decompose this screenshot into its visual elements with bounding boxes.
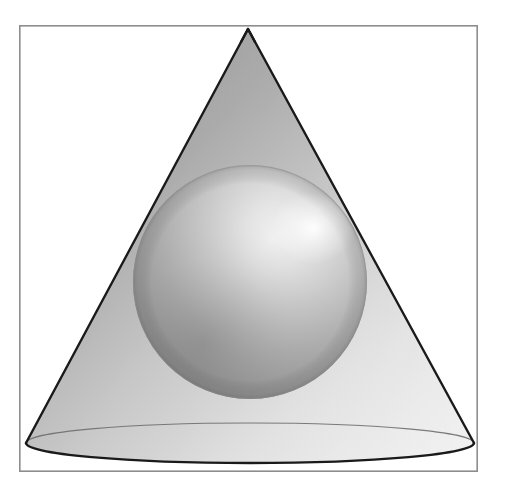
sphere-group (133, 165, 367, 399)
cone-and-sphere-illustration: Cone with inscribed sphere Grayscale sha… (0, 0, 507, 497)
figure-canvas: Cone with inscribed sphere Grayscale sha… (0, 0, 507, 497)
